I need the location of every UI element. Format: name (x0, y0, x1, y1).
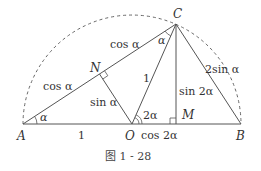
angle-label-A: α (40, 111, 48, 124)
point-label-N: N (89, 61, 101, 75)
label-NC: cos α (110, 38, 140, 51)
angle-arc-O-inner-icon (135, 118, 139, 124)
point-label-M: M (181, 108, 195, 122)
angle-label-O: 2α (143, 109, 158, 122)
label-AN: cos α (43, 80, 73, 93)
point-label-A: A (16, 129, 26, 143)
figure-caption: 图 1 - 28 (105, 150, 151, 163)
angle-arc-C-icon (165, 31, 171, 36)
point-label-C: C (173, 7, 182, 21)
point-label-B: B (235, 129, 245, 143)
angle-arc-A-icon (35, 116, 37, 124)
label-CB: 2sin α (205, 63, 240, 76)
geometry-diagram: A B C O M N cos α cos α sin α 1 sin 2α 2… (0, 0, 261, 171)
label-OC: 1 (143, 72, 150, 85)
label-CM: sin 2α (179, 85, 214, 98)
right-angle-M-icon (170, 118, 176, 124)
label-AO: 1 (78, 129, 85, 142)
label-ON: sin α (90, 96, 118, 109)
label-OM: cos 2α (141, 129, 178, 142)
angle-label-C: α (158, 34, 166, 47)
point-label-O: O (125, 129, 135, 143)
